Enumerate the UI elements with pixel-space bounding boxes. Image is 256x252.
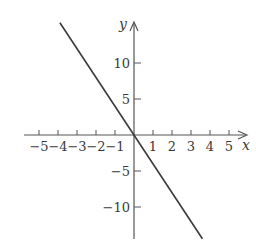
x-tick-label: 2: [168, 139, 176, 154]
line-chart: xy−5−4−3−2−112345105−5−10: [0, 0, 256, 252]
series-line: [60, 23, 203, 239]
y-axis-label: y: [118, 16, 128, 32]
axes: [24, 22, 247, 239]
x-tick-label: 5: [225, 139, 233, 154]
y-tick-label: 5: [122, 92, 130, 107]
data-series: [60, 23, 203, 239]
x-tick-label: −5: [29, 139, 48, 154]
x-tick-label: −3: [67, 139, 86, 154]
x-tick-label: 3: [187, 139, 195, 154]
y-tick-label: 10: [113, 56, 130, 71]
x-tick-label: 4: [206, 139, 214, 154]
x-tick-label: −2: [86, 139, 105, 154]
y-tick-label: −10: [103, 200, 130, 215]
x-tick-label: −4: [48, 139, 67, 154]
x-tick-label: 1: [149, 139, 157, 154]
tick-labels: xy−5−4−3−2−112345105−5−10: [29, 16, 250, 215]
y-tick-label: −5: [111, 164, 130, 179]
x-axis-label: x: [242, 137, 250, 153]
x-tick-label: −1: [105, 139, 124, 154]
